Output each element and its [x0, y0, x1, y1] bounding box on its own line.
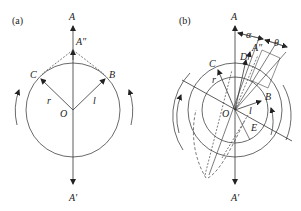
- panel-a-tangent-left: [42, 50, 73, 74]
- panel-b-label-l: l: [249, 105, 252, 116]
- panel-b-label-c: C: [209, 58, 216, 69]
- panel-b-label-b: B: [265, 91, 271, 102]
- panel-a-tangent-right: [73, 50, 104, 74]
- panel-b-label-a: A: [230, 11, 238, 22]
- panel-a-label-a: A: [68, 11, 76, 22]
- panel-b-label-a-double-prime: A″: [251, 42, 263, 53]
- panel-b-dashed-curve-2: [208, 120, 245, 178]
- panel-a-label-a-prime: A′: [68, 192, 78, 203]
- panel-b-dashed-curve: [193, 110, 206, 178]
- panel-b: (b): [173, 11, 292, 203]
- panel-b-rotation-arrow-right: [271, 108, 273, 135]
- panel-b-label-d: D: [239, 51, 248, 62]
- panel-b-outermost-arc: [173, 73, 190, 150]
- panel-b-tilted-line: [182, 80, 292, 141]
- panel-b-label-e: E: [250, 122, 257, 133]
- panel-b-tag: (b): [179, 15, 191, 27]
- diagram-canvas: (a) A A″ C B r l O A′ (b): [0, 0, 301, 211]
- panel-b-label-r: r: [212, 74, 216, 85]
- panel-a-tag: (a): [12, 15, 23, 27]
- panel-a-label-a-double-prime: A″: [75, 36, 87, 47]
- panel-a-vector-r: [41, 79, 73, 110]
- panel-b-vector-c: [218, 70, 235, 110]
- panel-a-label-r: r: [47, 95, 51, 106]
- panel-b-rotation-arrow-left: [177, 95, 181, 133]
- panel-a-vector-l: [73, 79, 105, 110]
- panel-b-projection-box: [250, 50, 280, 88]
- panel-a-rotation-arrow-right: [129, 90, 133, 125]
- panel-b-outermost-arc-right: [283, 85, 291, 140]
- panel-a-label-b: B: [109, 69, 115, 80]
- panel-b-label-a-prime: A′: [230, 192, 240, 203]
- panel-b-label-alpha: α: [246, 29, 252, 40]
- panel-b-label-o: O: [222, 108, 229, 119]
- panel-b-label-theta: θ: [274, 37, 279, 48]
- panel-a-label-c: C: [30, 69, 37, 80]
- panel-a-label-o: O: [60, 108, 67, 119]
- panel-a-label-l: l: [93, 95, 96, 106]
- panel-b-vector-d: [235, 60, 246, 110]
- panel-b-vector-a-double-prime: [248, 52, 250, 60]
- panel-a: (a) A A″ C B r l O A′: [12, 11, 133, 203]
- panel-a-rotation-arrow-left: [15, 90, 19, 125]
